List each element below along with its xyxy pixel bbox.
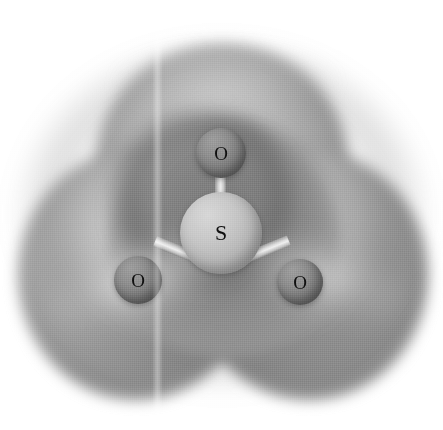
atom-label-oxygen-left: O bbox=[131, 271, 145, 290]
atom-sulfur-center: S bbox=[180, 192, 262, 274]
molecular-figure: O S O O bbox=[0, 0, 443, 430]
atom-oxygen-top: O bbox=[196, 128, 246, 178]
atom-oxygen-right: O bbox=[277, 259, 323, 305]
atom-label-sulfur: S bbox=[215, 222, 227, 244]
atom-label-oxygen-right: O bbox=[293, 273, 307, 292]
atom-label-oxygen-top: O bbox=[214, 144, 228, 163]
atom-oxygen-left: O bbox=[114, 256, 162, 304]
